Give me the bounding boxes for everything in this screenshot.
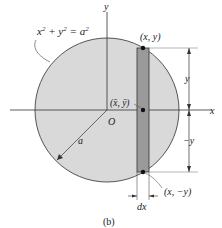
origin-label: O <box>108 116 115 127</box>
lower-dimension-label: −y <box>183 135 195 146</box>
dx-label: dx <box>137 201 147 212</box>
arrow-down-icon <box>187 166 191 172</box>
point-bottom-icon <box>141 170 145 174</box>
arrow-up-icon <box>187 48 191 54</box>
circle-strip-diagram: x2 + y2 = a2 y x O (x, y) (x̄, ȳ) (x, −… <box>0 0 222 228</box>
arrow-up-icon <box>187 110 191 116</box>
upper-dimension-label: y <box>184 73 190 84</box>
circle-equation: x2 + y2 = a2 <box>36 25 89 37</box>
point-centroid-icon <box>141 108 145 112</box>
figure-caption: (b) <box>103 216 115 228</box>
bottom-leader <box>145 173 162 188</box>
arrow-down-icon <box>187 104 191 110</box>
centroid-label: (x̄, ȳ) <box>110 98 130 109</box>
radius-label: a <box>78 135 83 146</box>
x-axis-label: x <box>209 105 215 116</box>
equation-leader <box>35 40 50 62</box>
y-axis-label: y <box>103 1 109 12</box>
arrow-right-icon <box>132 195 137 198</box>
arrow-left-icon <box>149 195 154 198</box>
point-top-icon <box>141 46 145 50</box>
top-point-label: (x, y) <box>140 31 161 43</box>
bottom-point-label: (x, −y) <box>164 186 192 198</box>
